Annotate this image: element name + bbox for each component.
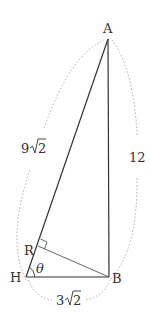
vertex-label-b: B [112,271,122,286]
svg-text:9: 9 [21,141,29,156]
edge-label-hb: 3 2 [56,291,81,308]
vertex-label-h: H [10,270,21,285]
svg-text:3: 3 [56,293,64,308]
svg-text:2: 2 [38,141,46,156]
dimension-arc-ab [112,40,137,135]
edge-br [38,246,109,277]
dimension-arc-hb-left [28,280,52,300]
angle-label-theta: θ [36,261,44,276]
edge-label-ab: 12 [129,150,146,165]
edge-ah [26,39,108,277]
dimension-arc-hb-right [86,280,110,300]
dimension-arc-ah [44,40,104,128]
vertex-label-a: A [102,21,113,36]
svg-text:2: 2 [73,293,81,308]
dimension-arc-ab-lower [110,178,137,280]
edge-ab [108,39,109,277]
vertex-label-r: R [24,243,35,258]
triangle-diagram: A H B R θ 9 2 12 3 2 [0,0,151,318]
edge-label-ah: 9 2 [21,139,46,156]
angle-arc-h [30,267,36,277]
dimension-arc-ah-lower [17,170,30,280]
